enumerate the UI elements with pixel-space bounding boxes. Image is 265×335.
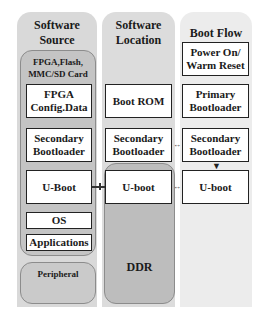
box-os: OS — [26, 212, 92, 229]
box-source-secondary-bootloader: Secondary Bootloader — [26, 128, 92, 162]
box-fpga-config-data: FPGA Config.Data — [26, 84, 92, 118]
box-source-u-boot: U-Boot — [26, 170, 92, 204]
ddr-label: DDR — [105, 260, 174, 275]
box-applications: Applications — [26, 234, 92, 251]
column-title-software-source: Software Source — [17, 18, 97, 48]
column-title-software-location: Software Location — [102, 18, 175, 48]
box-flow-u-boot: U-boot — [182, 170, 249, 204]
peripheral-label: Peripheral — [21, 269, 95, 279]
peripheral-group: Peripheral — [20, 262, 96, 304]
column-title-boot-flow: Boot Flow — [180, 26, 252, 41]
double-arrow-icon: ↔ — [173, 183, 181, 191]
box-location-secondary-bootloader: Secondary Bootloader — [105, 128, 172, 162]
box-flow-secondary-bootloader: Secondary Bootloader — [182, 128, 249, 162]
double-arrow-icon: ↔ — [173, 141, 181, 149]
box-power-on-warm-reset: Power On/ Warm Reset — [182, 42, 249, 76]
box-boot-rom: Boot ROM — [105, 84, 172, 118]
connector-tick — [99, 183, 101, 190]
down-arrow-icon: ▼ — [212, 162, 221, 170]
box-primary-bootloader: Primary Bootloader — [182, 84, 249, 118]
storage-group-label: FPGA,Flash, MMC/SD Card — [21, 56, 95, 80]
box-location-u-boot: U-boot — [105, 170, 172, 204]
